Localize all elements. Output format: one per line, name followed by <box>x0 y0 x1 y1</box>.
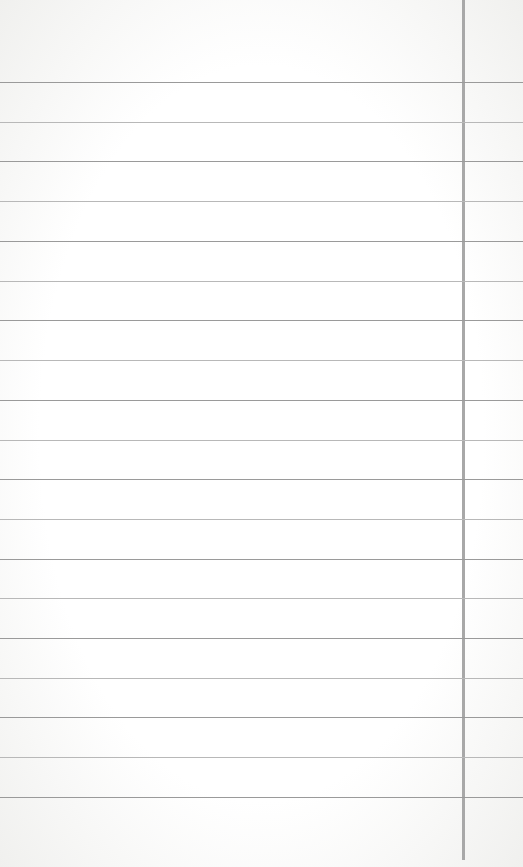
ruled-line <box>0 717 523 718</box>
ruled-line <box>0 757 523 758</box>
ruled-line <box>0 360 523 361</box>
ruled-line <box>0 678 523 679</box>
ruled-line <box>0 122 523 123</box>
ruled-line <box>0 82 523 83</box>
ruled-line <box>0 161 523 162</box>
ruled-line <box>0 797 523 798</box>
ruled-line <box>0 281 523 282</box>
lined-paper <box>0 0 523 867</box>
ruled-line <box>0 440 523 441</box>
ruled-line <box>0 201 523 202</box>
ruled-line <box>0 479 523 480</box>
ruled-line <box>0 519 523 520</box>
ruled-line <box>0 241 523 242</box>
ruled-line <box>0 638 523 639</box>
margin-line <box>462 0 465 860</box>
ruled-line <box>0 320 523 321</box>
ruled-line <box>0 559 523 560</box>
ruled-line <box>0 598 523 599</box>
ruled-line <box>0 400 523 401</box>
